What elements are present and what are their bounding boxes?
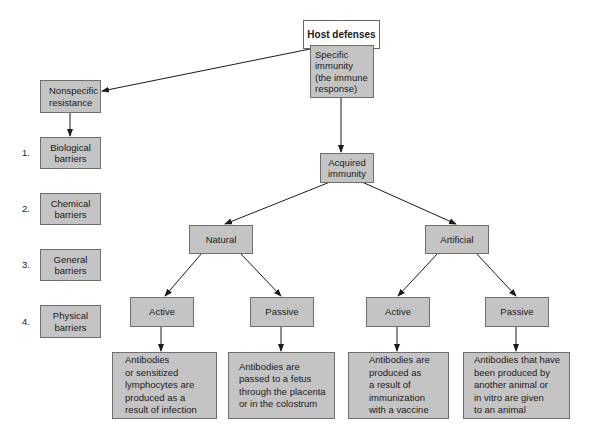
node-label: Nonspecific resistance	[49, 85, 98, 108]
desc-text: Antibodies or sensitized lymphocytes are…	[125, 354, 197, 417]
node-acquired-immunity: Acquired immunity	[320, 153, 374, 183]
desc-text: Antibodies are passed to a fetus through…	[239, 361, 326, 411]
node-label: General barriers	[54, 254, 88, 277]
desc-artificial-passive: Antibodies that have been produced by an…	[463, 352, 570, 419]
desc-text: Antibodies are produced as a result of i…	[369, 354, 430, 417]
desc-artificial-active: Antibodies are produced as a result of i…	[348, 352, 449, 419]
desc-natural-active: Antibodies or sensitized lymphocytes are…	[112, 352, 217, 419]
node-specific-immunity: Specific immunity (the immune response)	[310, 45, 374, 98]
node-nonspecific-resistance: Nonspecific resistance	[40, 80, 101, 113]
node-chemical-barriers: Chemical barriers	[40, 193, 101, 225]
node-label: Passive	[500, 306, 533, 318]
node-natural-passive: Passive	[250, 297, 314, 327]
node-label: Active	[149, 306, 175, 318]
node-artificial-active: Active	[366, 297, 430, 327]
node-physical-barriers: Physical barriers	[40, 305, 101, 338]
node-label: Chemical barriers	[51, 198, 91, 221]
node-label: Physical barriers	[53, 310, 88, 333]
node-label: Biological barriers	[50, 142, 91, 165]
node-label: Artificial	[440, 234, 473, 246]
node-label: Active	[385, 306, 411, 318]
node-label: Acquired immunity	[328, 157, 366, 180]
node-label: Specific immunity (the immune response)	[315, 49, 368, 95]
desc-text: Antibodies that have been produced by an…	[474, 354, 560, 417]
node-natural: Natural	[189, 225, 253, 254]
node-artificial: Artificial	[425, 225, 489, 254]
node-general-barriers: General barriers	[40, 249, 101, 281]
node-label: Host defenses	[307, 29, 375, 41]
node-natural-active: Active	[130, 297, 194, 327]
node-label: Natural	[206, 234, 237, 246]
desc-natural-passive: Antibodies are passed to a fetus through…	[228, 352, 335, 419]
node-biological-barriers: Biological barriers	[40, 137, 101, 169]
node-label: Passive	[265, 306, 298, 318]
item-number: 1.	[22, 147, 30, 158]
item-number: 4.	[22, 316, 30, 327]
item-number: 2.	[22, 203, 30, 214]
node-artificial-passive: Passive	[485, 297, 549, 327]
item-number: 3.	[22, 259, 30, 270]
